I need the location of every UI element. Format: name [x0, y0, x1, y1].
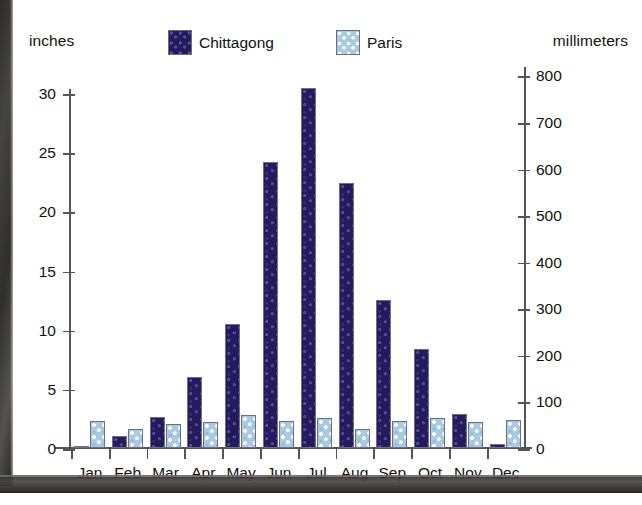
bar-chittagong-dec — [490, 444, 505, 448]
y-tick-label-right-700: 700 — [536, 114, 562, 132]
x-tick-aug — [336, 448, 338, 459]
bar-paris-jun — [279, 421, 294, 448]
y-axis-left-line — [69, 89, 71, 448]
bar-paris-sep — [392, 421, 407, 448]
bar-chittagong-nov — [452, 414, 467, 448]
x-tick-jul — [298, 448, 300, 459]
y-tick-label-left-5: 5 — [0, 381, 56, 399]
x-tick-oct — [411, 448, 413, 459]
bar-chittagong-sep — [376, 300, 391, 448]
right-axis-unit-label: millimeters — [553, 32, 628, 50]
y-tick-right-800 — [518, 76, 530, 78]
bar-paris-mar — [166, 424, 181, 448]
y-tick-label-left-10: 10 — [0, 322, 56, 340]
y-tick-right-700 — [518, 123, 530, 125]
chart-page: inches Chittagong Paris millimeters 0510… — [13, 0, 642, 486]
y-tick-left-15 — [63, 272, 75, 274]
y-tick-right-200 — [518, 356, 530, 358]
plot-area: 051015202530 0100200300400500600700800 J… — [13, 60, 642, 486]
bar-chittagong-jul — [301, 88, 316, 448]
y-tick-label-left-20: 20 — [0, 203, 56, 221]
bar-chittagong-jan — [74, 446, 89, 448]
scan-edge-bottom-artifact — [0, 475, 642, 493]
bar-paris-oct — [430, 418, 445, 448]
legend-item-chittagong[interactable]: Chittagong — [168, 30, 274, 55]
y-tick-right-400 — [518, 263, 530, 265]
y-tick-right-500 — [518, 216, 530, 218]
y-tick-label-left-15: 15 — [0, 263, 56, 281]
y-tick-left-0 — [63, 449, 75, 451]
bar-paris-apr — [203, 422, 218, 448]
y-tick-right-0 — [518, 449, 530, 451]
y-tick-right-100 — [518, 402, 530, 404]
y-tick-label-right-300: 300 — [536, 300, 562, 318]
x-tick-nov — [449, 448, 451, 459]
bar-chittagong-aug — [339, 183, 354, 448]
bar-chittagong-mar — [150, 417, 165, 448]
x-tick-feb — [109, 448, 111, 459]
legend-label-paris: Paris — [367, 35, 402, 51]
chittagong-swatch-icon — [168, 30, 192, 55]
y-tick-label-right-0: 0 — [536, 440, 545, 458]
y-tick-right-600 — [518, 170, 530, 172]
y-tick-label-right-100: 100 — [536, 393, 562, 411]
y-tick-label-right-200: 200 — [536, 347, 562, 365]
y-tick-label-right-400: 400 — [536, 254, 562, 272]
y-tick-left-10 — [63, 331, 75, 333]
bar-paris-feb — [128, 429, 143, 448]
y-tick-left-5 — [63, 390, 75, 392]
y-tick-left-20 — [63, 212, 75, 214]
x-tick-dec — [487, 448, 489, 459]
y-tick-right-300 — [518, 309, 530, 311]
bar-paris-nov — [468, 422, 483, 448]
chart-legend: Chittagong Paris — [168, 28, 508, 58]
legend-item-paris[interactable]: Paris — [336, 30, 402, 55]
page-bottom-margin — [0, 493, 642, 505]
bar-chittagong-may — [225, 324, 240, 448]
y-tick-left-30 — [63, 94, 75, 96]
bar-chittagong-oct — [414, 349, 429, 448]
paris-swatch-icon — [336, 30, 360, 55]
x-tick-jan — [71, 448, 73, 459]
bar-paris-jul — [317, 418, 332, 448]
scan-edge-left-artifact — [0, 0, 13, 486]
left-axis-unit-label: inches — [29, 32, 74, 50]
y-tick-label-right-600: 600 — [536, 161, 562, 179]
y-tick-label-right-800: 800 — [536, 67, 562, 85]
bar-paris-dec — [506, 420, 521, 448]
y-tick-label-left-30: 30 — [0, 85, 56, 103]
chart-header: inches Chittagong Paris millimeters — [13, 28, 642, 58]
x-tick-jun — [260, 448, 262, 459]
bar-chittagong-jun — [263, 162, 278, 448]
bar-paris-may — [241, 415, 256, 448]
x-tick-apr — [184, 448, 186, 459]
x-tick-mar — [147, 448, 149, 459]
y-tick-label-left-25: 25 — [0, 144, 56, 162]
x-tick-sep — [373, 448, 375, 459]
y-tick-label-right-500: 500 — [536, 207, 562, 225]
bar-chittagong-feb — [112, 436, 127, 448]
legend-label-chittagong: Chittagong — [199, 35, 274, 51]
y-tick-left-25 — [63, 153, 75, 155]
x-tick-may — [222, 448, 224, 459]
bar-paris-aug — [355, 429, 370, 448]
y-tick-label-left-0: 0 — [0, 440, 56, 458]
bar-chittagong-apr — [187, 377, 202, 448]
bar-paris-jan — [90, 421, 105, 448]
